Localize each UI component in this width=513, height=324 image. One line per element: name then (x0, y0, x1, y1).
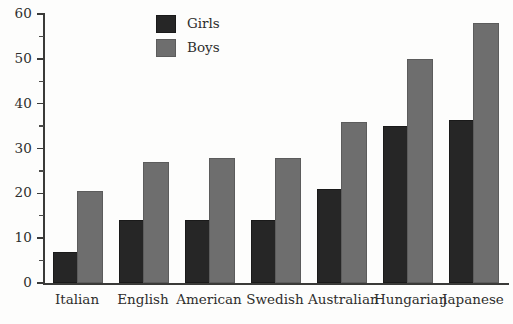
legend-item-girls: Girls (156, 15, 220, 33)
x-axis-label-american: American (176, 292, 242, 307)
y-tick-label-60: 60 (0, 7, 32, 21)
bar-australian-boys (341, 122, 367, 283)
boys-swatch-icon (156, 39, 176, 57)
chart-legend: Girls Boys (156, 15, 220, 63)
legend-label-girls: Girls (187, 17, 220, 31)
y-tick-major-60 (37, 13, 44, 14)
y-tick-label-40: 40 (0, 97, 32, 111)
y-tick-label-0: 0 (0, 276, 32, 290)
legend-item-boys: Boys (156, 39, 220, 57)
bar-swedish-girls (251, 220, 277, 283)
legend-label-boys: Boys (187, 41, 220, 55)
y-tick-major-40 (37, 103, 44, 104)
bar-italian-boys (77, 191, 103, 283)
bar-american-girls (185, 220, 211, 283)
x-axis-label-hungarian: Hungarian (374, 292, 440, 307)
bar-japanese-boys (473, 23, 499, 283)
y-tick-major-50 (37, 58, 44, 59)
bar-japanese-girls (449, 120, 475, 283)
x-axis-line (43, 283, 509, 285)
bar-english-girls (119, 220, 145, 283)
bar-hungarian-girls (383, 126, 409, 283)
plot-area (44, 14, 506, 283)
x-axis-label-australian: Australian (308, 292, 374, 307)
bar-hungarian-boys (407, 59, 433, 283)
bar-australian-girls (317, 189, 343, 283)
bar-english-boys (143, 162, 169, 283)
y-tick-major-0 (37, 282, 44, 283)
bar-chart: 0102030405060 ItalianEnglishAmericanSwed… (0, 0, 513, 324)
y-tick-label-10: 10 (0, 231, 32, 245)
y-tick-major-20 (37, 193, 44, 194)
x-axis-label-italian: Italian (44, 292, 110, 307)
y-tick-major-30 (37, 148, 44, 149)
bar-american-boys (209, 158, 235, 283)
bar-italian-girls (53, 252, 79, 283)
x-axis-label-english: English (110, 292, 176, 307)
y-tick-label-20: 20 (0, 186, 32, 200)
x-axis-label-swedish: Swedish (242, 292, 308, 307)
bar-swedish-boys (275, 158, 301, 283)
y-tick-major-10 (37, 237, 44, 238)
girls-swatch-icon (156, 15, 176, 33)
y-tick-label-30: 30 (0, 142, 32, 156)
x-axis-label-japanese: Japanese (440, 292, 506, 307)
y-tick-label-50: 50 (0, 52, 32, 66)
